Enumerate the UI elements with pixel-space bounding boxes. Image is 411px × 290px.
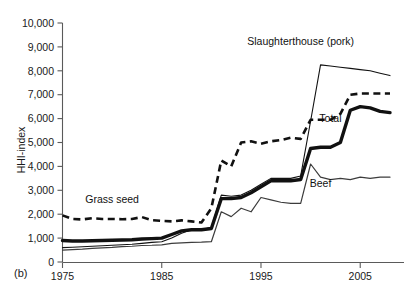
y-tick-label: 10,000	[22, 17, 54, 29]
series-line-beef	[63, 164, 391, 250]
x-tick-label: 1985	[150, 270, 174, 282]
x-axis: 1975198519952005	[51, 263, 404, 283]
y-tick-label: 0	[48, 256, 54, 268]
y-tick-label: 1,000	[28, 232, 54, 244]
series-label-total: Total	[319, 112, 341, 124]
series-label-slaughterthouse-pork: Slaughterthouse (pork)	[247, 35, 354, 47]
y-tick-label: 5,000	[28, 136, 54, 148]
data-series-layer	[63, 65, 391, 250]
y-tick-label: 8,000	[28, 65, 54, 77]
y-axis-title: HHI-index	[15, 126, 27, 173]
series-label-grass-seed: Grass seed	[85, 193, 139, 205]
x-axis-ticks: 1975198519952005	[51, 263, 372, 283]
series-label-layer: Grass seedTotalSlaughterthouse (pork)Bee…	[85, 35, 354, 206]
chart-figure: 01,0002,0003,0004,0005,0006,0007,0008,00…	[0, 0, 411, 290]
y-tick-label: 6,000	[28, 112, 54, 124]
series-line-total	[63, 107, 391, 241]
y-tick-label: 9,000	[28, 41, 54, 53]
y-tick-label: 2,000	[28, 208, 54, 220]
y-tick-label: 3,000	[28, 184, 54, 196]
x-tick-label: 1975	[51, 270, 75, 282]
x-tick-label: 1995	[249, 270, 273, 282]
panel-label: (b)	[14, 267, 27, 279]
series-label-beef: Beef	[310, 177, 332, 189]
hhi-index-line-chart: 01,0002,0003,0004,0005,0006,0007,0008,00…	[0, 0, 411, 290]
y-axis-ticks: 01,0002,0003,0004,0005,0006,0007,0008,00…	[22, 17, 63, 268]
y-tick-label: 7,000	[28, 88, 54, 100]
y-axis: 01,0002,0003,0004,0005,0006,0007,0008,00…	[22, 17, 63, 268]
y-tick-label: 4,000	[28, 160, 54, 172]
x-tick-label: 2005	[349, 270, 373, 282]
